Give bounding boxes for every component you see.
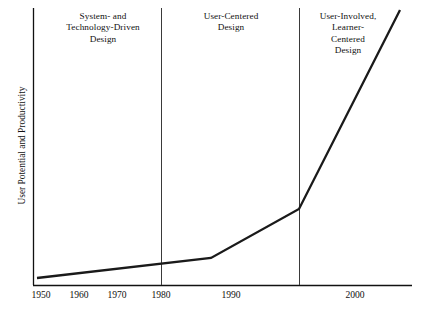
y-axis-title: User Potential and Productivity [17, 46, 28, 246]
x-tick-label-1960: 1960 [69, 289, 88, 300]
x-tick-label-1970: 1970 [107, 289, 126, 300]
era-label-system-technology-driven-design: System- and Technology-Driven Design [49, 11, 157, 45]
chart-figure: System- and Technology-Driven Design Use… [0, 0, 426, 313]
x-tick-label-1990: 1990 [221, 289, 240, 300]
x-tick-label-1980: 1980 [151, 289, 170, 300]
x-tick-label-1950: 1950 [31, 289, 50, 300]
era-label-user-involved-learner-centered-design: User-Involved, Learner- Centered Design [300, 11, 396, 57]
x-tick-label-2000: 2000 [345, 289, 364, 300]
era-label-user-centered-design: User-Centered Design [177, 11, 285, 34]
